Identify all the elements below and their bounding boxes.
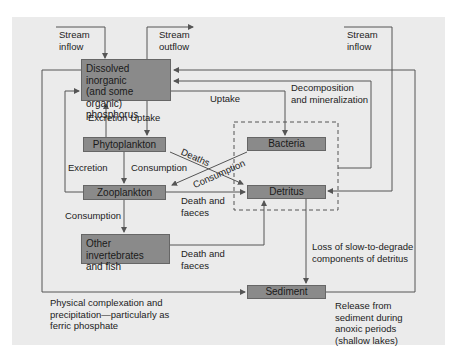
label-loss-slow-degrade: Loss of slow-to-degrade components of de… — [312, 241, 413, 264]
label-stream-inflow-left: Stream inflow — [59, 29, 90, 52]
label-uptake: Uptake — [210, 93, 240, 105]
label-excretion-uptake: Excretion Uptake — [88, 112, 160, 124]
node-sediment: Sediment — [247, 285, 326, 299]
label-excretion: Excretion — [68, 162, 108, 174]
node-invertebrates-fish: Other invertebrates and fish — [81, 234, 170, 264]
label-stream-inflow-right: Stream inflow — [347, 29, 378, 52]
label-physical-complexation: Physical complexation and precipitation—… — [50, 297, 169, 332]
label-consumption-phyto: Consumption — [131, 162, 187, 174]
label-consumption-zoo: Consumption — [65, 210, 121, 222]
node-zooplankton: Zooplankton — [83, 185, 166, 200]
label-release-sediment: Release from sediment during anoxic peri… — [335, 300, 403, 346]
node-detritus: Detritus — [247, 185, 326, 199]
label-decomposition: Decomposition and mineralization — [291, 82, 368, 105]
label-death-faeces-zoo: Death and faeces — [181, 195, 225, 218]
label-stream-outflow: Stream outflow — [159, 29, 190, 52]
label-death-faeces-inv: Death and faeces — [181, 248, 225, 271]
node-phytoplankton: Phytoplankton — [83, 137, 166, 152]
node-bacteria: Bacteria — [247, 137, 326, 151]
node-dissolved-phosphorus: Dissolved inorganic (and some organic) p… — [81, 59, 171, 101]
